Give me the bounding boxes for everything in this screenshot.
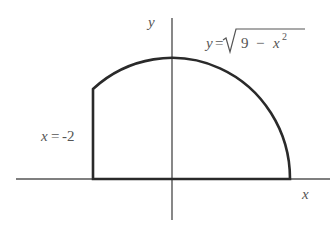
boundary-label-eq: = xyxy=(51,128,59,144)
radicand-exponent: 2 xyxy=(282,31,287,42)
radicand-number: 9 xyxy=(241,35,249,51)
radicand-variable: x xyxy=(272,35,280,51)
x-axis-label: x xyxy=(301,186,309,202)
boundary-label-lhs: x xyxy=(40,128,48,144)
diagram-canvas: y x y = 9 − x 2 x = -2 xyxy=(0,0,331,232)
radicand-minus: − xyxy=(256,35,264,51)
curve-equation-label: y = 9 − x 2 xyxy=(204,29,305,52)
curve-label-lhs: y xyxy=(204,35,213,51)
curve-label-eq: = xyxy=(215,35,223,51)
boundary-line-label: x = -2 xyxy=(40,128,75,144)
y-axis-label: y xyxy=(146,14,155,30)
boundary-label-value: -2 xyxy=(62,128,75,144)
region-boundary xyxy=(93,58,290,179)
